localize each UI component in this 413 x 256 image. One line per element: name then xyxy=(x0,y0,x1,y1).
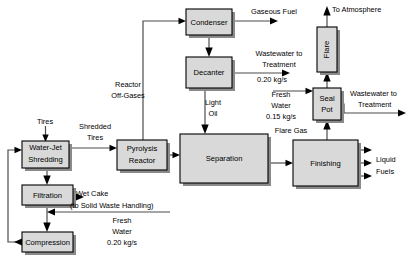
flowsheet-canvas: Water-Jet Shredding Filtration Compressi… xyxy=(0,0,413,256)
unit-label-line: Seal xyxy=(319,94,335,103)
unit-water-jet-shredding[interactable]: Water-Jet Shredding xyxy=(22,141,72,171)
arrowhead-shredding-filtration xyxy=(43,176,50,186)
stream-label-fresh-water-filtration: Water xyxy=(112,227,132,236)
unit-finishing[interactable]: Finishing xyxy=(293,140,361,189)
unit-flare[interactable]: Flare xyxy=(317,27,340,75)
arrowhead-recycle-from-compression xyxy=(14,238,22,245)
stream-label-tires: Tires xyxy=(37,117,53,126)
stream-label-to-atmosphere: To Atmosphere xyxy=(332,5,381,14)
arrowhead-gaseous-fuel xyxy=(270,17,278,24)
arrowhead-filtration-compression xyxy=(43,223,50,233)
unit-label-line: Reactor xyxy=(129,156,156,165)
arrowhead-light-oil xyxy=(201,125,208,135)
flow-connectors xyxy=(8,6,406,246)
unit-condenser[interactable]: Condenser xyxy=(186,9,235,38)
stream-label-fresh-water-filtration: 0.20 kg/s xyxy=(107,238,137,247)
stream-label-fresh-water-filtration: Fresh xyxy=(113,216,132,225)
stream-label-light-oil: Light xyxy=(205,98,221,107)
arrowhead-recycle-to-shredding xyxy=(15,147,23,153)
unit-label-line: Flare xyxy=(322,41,331,58)
connector-reactor-offgases xyxy=(143,21,181,140)
arrowhead-atmosphere xyxy=(323,6,330,16)
stream-label-wastewater-sealpot: Treatment xyxy=(358,100,391,109)
stream-label-wastewater-decanter: Treatment xyxy=(262,60,295,69)
stream-label-fresh-water-sealpot: Water xyxy=(271,101,291,110)
unit-seal-pot[interactable]: Seal Pot xyxy=(313,88,344,123)
arrowhead-liquid-fuels-3 xyxy=(364,172,372,179)
arrowhead-separation-finishing xyxy=(286,160,294,166)
process-flow-diagram: Water-Jet Shredding Filtration Compressi… xyxy=(0,0,413,256)
stream-label-fresh-water-sealpot: Fresh xyxy=(272,90,291,99)
stream-label-gaseous-fuel: Gaseous Fuel xyxy=(251,7,297,16)
stream-label-shredded-tires: Shredded xyxy=(79,122,111,131)
unit-label-line: Filtration xyxy=(33,191,62,200)
unit-label-line: Separation xyxy=(206,154,243,163)
stream-label-wastewater-decanter: 0.20 kg/s xyxy=(257,75,287,84)
unit-label-line: Pyrolysis xyxy=(127,144,158,153)
unit-pyrolysis-reactor[interactable]: Pyrolysis Reactor xyxy=(117,140,170,173)
arrowhead-sealpot-wastewater xyxy=(398,109,406,116)
unit-filtration[interactable]: Filtration xyxy=(22,185,76,208)
stream-label-wet-cake-destination: (to Solid Waste Handling) xyxy=(70,201,154,210)
unit-label-line: Condenser xyxy=(190,18,228,27)
stream-label-fresh-water-sealpot: 0.15 kg/s xyxy=(266,112,296,121)
unit-label-line: Decanter xyxy=(194,68,225,77)
unit-label-line: Shredding xyxy=(28,155,63,164)
arrowhead-liquid-fuels-1 xyxy=(364,146,372,153)
stream-label-wastewater-sealpot: Wastewater to xyxy=(350,89,397,98)
stream-label-wastewater-decanter: Wastewater to xyxy=(256,49,303,58)
stream-label-shredded-tires: Tires xyxy=(87,133,103,142)
arrowhead-fresh-water-sealpot xyxy=(306,88,314,94)
arrowhead-reactor-separation xyxy=(173,152,181,158)
arrowhead-offgases xyxy=(179,18,187,24)
unit-decanter[interactable]: Decanter xyxy=(186,57,235,91)
unit-compression[interactable]: Compression xyxy=(22,232,76,255)
stream-label-light-oil: Oil xyxy=(208,109,217,118)
stream-label-liquid-fuels: Liquid xyxy=(376,155,396,164)
unit-label-line: Finishing xyxy=(310,159,340,168)
stream-label-reactor-offgases: Reactor xyxy=(115,80,141,89)
arrowhead-liquid-fuels-2 xyxy=(364,159,372,166)
arrowhead-shredded-tires xyxy=(110,145,118,151)
stream-labels: Tires Shredded Tires Reactor Off-Gases W… xyxy=(37,5,397,247)
unit-separation[interactable]: Separation xyxy=(180,134,271,186)
stream-label-flare-gas: Flare Gas xyxy=(275,126,308,135)
stream-label-liquid-fuels: Fuels xyxy=(376,167,394,176)
arrowhead-fresh-water-makeup xyxy=(47,208,55,215)
arrowhead-condenser-decanter xyxy=(205,48,212,58)
connector-water-recycle xyxy=(8,150,22,242)
unit-label-line: Water-Jet xyxy=(29,143,63,152)
stream-label-reactor-offgases: Off-Gases xyxy=(111,91,145,100)
unit-label-line: Pot xyxy=(321,105,333,114)
unit-label-line: Compression xyxy=(25,238,70,247)
stream-label-wet-cake: Wet Cake xyxy=(76,189,108,198)
